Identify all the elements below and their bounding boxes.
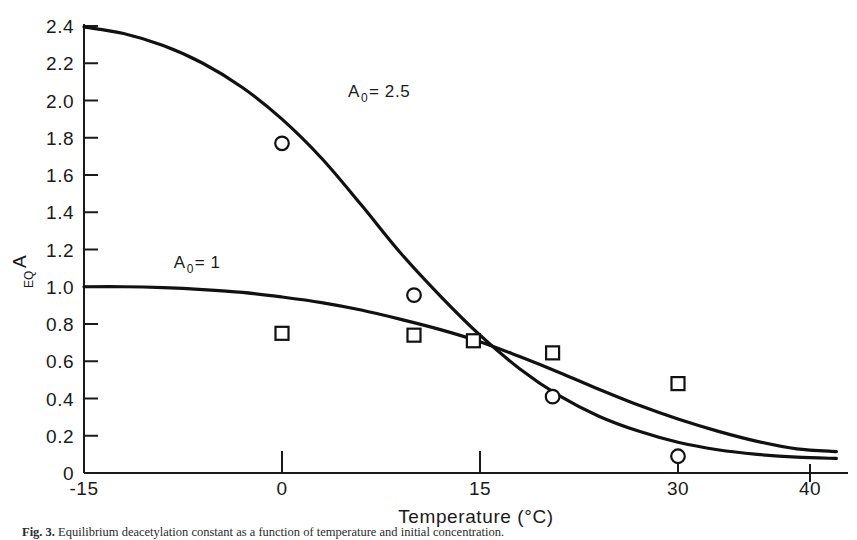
data-point-square-4 bbox=[672, 377, 685, 390]
x-tick-label-neg15: -15 bbox=[70, 478, 99, 499]
y-tick-label-2.2: 2.2 bbox=[46, 53, 74, 74]
data-point-circle-2 bbox=[546, 390, 560, 404]
data-point-circle-1 bbox=[407, 288, 421, 302]
y-tick-label-1.4: 1.4 bbox=[46, 202, 74, 223]
y-axis-ticks: 00.20.40.60.81.01.21.41.61.82.02.22.4 bbox=[46, 16, 98, 484]
y-tick-label-1.0: 1.0 bbox=[46, 277, 74, 298]
data-point-circle-0 bbox=[275, 137, 289, 151]
figure-caption-label: Fig. 3. bbox=[22, 525, 55, 539]
figure-caption: Fig. 3. Equilibrium deacetylation consta… bbox=[22, 525, 842, 540]
curve-label-a0-2-5-value: = 2.5 bbox=[369, 82, 410, 101]
y-axis-title-subscript: EQ bbox=[22, 271, 36, 288]
y-tick-label-1.2: 1.2 bbox=[46, 240, 74, 261]
y-tick-label-0.4: 0.4 bbox=[46, 389, 74, 410]
curve-label-a0-1-base: A bbox=[174, 253, 186, 272]
data-points-group bbox=[275, 137, 685, 464]
x-tick-label-30: 30 bbox=[667, 478, 689, 499]
curve-label-a0-1-subscript: 0 bbox=[187, 262, 194, 276]
data-point-square-2 bbox=[467, 334, 480, 347]
x-tick-label-0: 0 bbox=[276, 478, 287, 499]
y-tick-label-1.6: 1.6 bbox=[46, 165, 74, 186]
figure-caption-text: Equilibrium deacetylation constant as a … bbox=[58, 525, 504, 539]
data-point-circle-3 bbox=[671, 449, 685, 463]
curve-label-a0-2-5: A0 = 2.5 bbox=[348, 82, 410, 105]
x-axis-title: Temperature (°C) bbox=[398, 506, 554, 527]
curves-group bbox=[84, 27, 836, 459]
x-axis-ticks: -150153040 bbox=[70, 451, 822, 499]
axes-group bbox=[84, 24, 848, 473]
y-axis-title: A EQ bbox=[9, 255, 36, 288]
curve-series-0 bbox=[84, 27, 836, 459]
curve-label-a0-2-5-base: A bbox=[348, 82, 360, 101]
y-axis-title-main: A bbox=[9, 255, 30, 268]
data-point-square-0 bbox=[276, 327, 289, 340]
y-tick-label-0.6: 0.6 bbox=[46, 351, 74, 372]
curve-label-a0-1-value: = 1 bbox=[195, 253, 221, 272]
x-tick-label-40: 40 bbox=[799, 478, 821, 499]
y-tick-label-0.8: 0.8 bbox=[46, 314, 74, 335]
data-point-square-3 bbox=[546, 346, 559, 359]
y-tick-label-2.4: 2.4 bbox=[46, 16, 74, 37]
curve-annotations: A0 = 2.5A0 = 1 bbox=[174, 82, 411, 276]
data-point-square-1 bbox=[408, 329, 421, 342]
curve-label-a0-2-5-subscript: 0 bbox=[361, 91, 368, 105]
curve-label-a0-1: A0 = 1 bbox=[174, 253, 221, 276]
y-tick-label-2.0: 2.0 bbox=[46, 91, 74, 112]
y-tick-label-1.8: 1.8 bbox=[46, 128, 74, 149]
curve-series-1 bbox=[84, 287, 836, 452]
x-tick-label-15: 15 bbox=[469, 478, 491, 499]
y-tick-label-0.2: 0.2 bbox=[46, 426, 74, 447]
